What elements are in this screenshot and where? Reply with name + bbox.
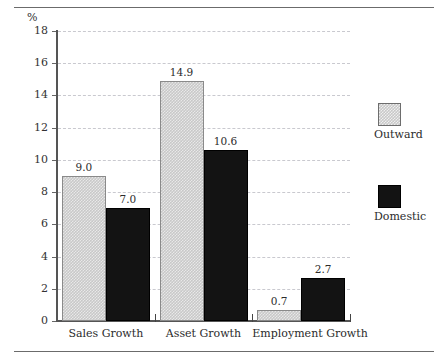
y-axis-tick-label: 10 <box>22 154 48 165</box>
x-axis-tick-mark <box>252 314 253 322</box>
gridline <box>58 95 350 96</box>
plot-area: % 024681012141618 9.07.014.910.60.72.7 S… <box>0 0 448 364</box>
y-axis-tick-label: 6 <box>22 218 48 229</box>
bar-value-label: 14.9 <box>152 67 212 78</box>
legend-item-outward[interactable]: Outward <box>378 103 423 141</box>
x-axis-tick-mark <box>155 314 156 322</box>
gridline <box>58 31 350 32</box>
gridline <box>58 63 350 64</box>
legend-label: Domestic <box>374 211 426 223</box>
chart-figure: % 024681012141618 9.07.014.910.60.72.7 S… <box>0 0 448 364</box>
bar-value-label: 2.7 <box>293 264 353 275</box>
x-axis-tick-mark <box>350 314 351 322</box>
legend-item-domestic[interactable]: Domestic <box>378 185 426 223</box>
y-axis-tick-label: 8 <box>22 186 48 197</box>
bar-value-label: 0.7 <box>249 296 309 307</box>
y-axis-tick-label: 12 <box>22 122 48 133</box>
y-axis-tick-label: 16 <box>22 57 48 68</box>
bar-outward <box>257 310 301 321</box>
bar-domestic <box>204 150 248 321</box>
legend-label: Outward <box>374 129 423 141</box>
bar-domestic <box>106 208 150 321</box>
x-axis-category-label: Sales Growth <box>57 328 155 340</box>
legend-swatch-domestic <box>378 185 401 208</box>
y-axis-tick-label: 0 <box>22 315 48 326</box>
x-axis-category-label: Asset Growth <box>155 328 253 340</box>
y-axis-unit-label: % <box>27 12 37 23</box>
legend-swatch-outward <box>378 103 401 126</box>
y-axis-line <box>56 30 58 322</box>
bar-value-label: 9.0 <box>54 162 114 173</box>
bar-outward <box>160 81 204 321</box>
x-axis-category-label: Employment Growth <box>252 328 350 340</box>
y-axis-tick-label: 18 <box>22 25 48 36</box>
bar-value-label: 7.0 <box>98 194 158 205</box>
y-axis-tick-label: 14 <box>22 89 48 100</box>
bar-value-label: 10.6 <box>196 136 256 147</box>
y-axis-tick-label: 2 <box>22 283 48 294</box>
gridline <box>58 128 350 129</box>
y-axis-tick-label: 4 <box>22 251 48 262</box>
